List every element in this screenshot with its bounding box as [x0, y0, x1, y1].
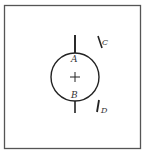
label-d: D — [100, 106, 108, 115]
label-b: B — [70, 90, 78, 100]
label-c: C — [102, 38, 108, 47]
diagram-canvas: A B C D — [0, 0, 144, 154]
label-a: A — [70, 54, 78, 64]
mark-d — [97, 100, 99, 112]
